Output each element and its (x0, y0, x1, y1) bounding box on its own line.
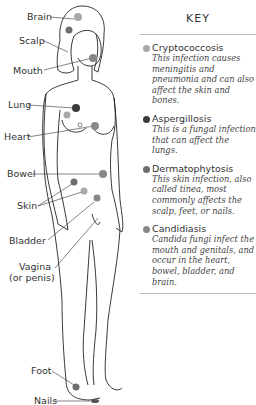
label-scalp: Scalp (19, 36, 45, 46)
mouth-dot-icon (89, 54, 97, 62)
key-item-cryptococcosis: Cryptococcosis This infection causes men… (140, 42, 256, 106)
bowel-dot-icon (99, 170, 107, 178)
label-foot: Foot (31, 366, 51, 376)
key-panel: KEY Cryptococcosis This infection causes… (140, 0, 256, 294)
key-title: KEY (140, 12, 256, 28)
key-item-name: Aspergillosis (152, 113, 256, 124)
heart-dot-icon (91, 122, 99, 130)
body-diagram: Brain Scalp Mouth Lung Heart Bowel Skin … (0, 0, 150, 405)
key-item-candidiasis: Candidiasis Candida fungi infect the mou… (140, 223, 256, 287)
nails-mark-icon (91, 399, 99, 403)
key-bottom-divider (140, 293, 256, 294)
key-divider (140, 34, 256, 35)
key-item-description: This infection causes meningitis and pne… (152, 53, 256, 106)
label-vagina-sub: (or penis) (9, 273, 55, 283)
label-mouth: Mouth (13, 66, 43, 76)
key-item-description: This skin infection, also called tinea, … (152, 174, 256, 216)
key-item-aspergillosis: Aspergillosis This is a fungal infection… (140, 113, 256, 156)
label-bladder: Bladder (9, 236, 46, 246)
scalp-dot-icon (66, 27, 73, 34)
key-item-name: Candidiasis (152, 223, 256, 234)
infection-dots (64, 13, 108, 403)
label-vagina: Vagina (19, 262, 51, 272)
label-nails: Nails (34, 396, 57, 405)
skin2-dot-icon (81, 188, 88, 195)
label-brain: Brain (27, 12, 52, 22)
key-item-name: Cryptococcosis (152, 42, 256, 53)
key-item-name: Dermatophytosis (152, 163, 256, 174)
bladder-dot-icon (94, 195, 101, 202)
skin-dot-icon (71, 179, 78, 186)
candidiasis-dot-icon (143, 226, 150, 233)
key-item-dermatophytosis: Dermatophytosis This skin infection, als… (140, 163, 256, 216)
aspergillosis-dot-icon (143, 116, 150, 123)
label-lung: Lung (8, 100, 31, 110)
dermatophytosis-dot-icon (143, 166, 150, 173)
label-heart: Heart (4, 132, 30, 142)
key-item-description: This is a fungal infection that can affe… (152, 124, 256, 156)
cryptococcosis-dot-icon (143, 45, 150, 52)
nipple-mark (78, 123, 82, 127)
key-item-description: Candida fungi infect the mouth and genit… (152, 234, 256, 287)
lung-dot-icon (72, 104, 80, 112)
label-skin: Skin (17, 201, 37, 211)
brain-dot-icon (74, 13, 82, 21)
foot-dot-icon (73, 384, 80, 391)
label-bowel: Bowel (7, 169, 36, 179)
lung2-dot-icon (64, 112, 71, 119)
